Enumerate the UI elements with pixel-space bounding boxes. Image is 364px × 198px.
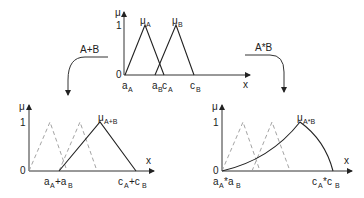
arrow-product-label: A*B [255,42,273,53]
curved-arrow-left [68,57,108,95]
curve-product [222,122,333,171]
arrow-sum: A+B [68,44,108,95]
bottom-right-plot: μ x 0 1 μ A*B a A *a B c A *c B [212,101,352,189]
svg-text:B: B [196,86,201,93]
svg-text:*c: *c [323,176,332,187]
label-mu-a: μ A [140,15,151,28]
svg-text:A: A [128,86,133,93]
br-y-tick-1: 1 [213,117,219,128]
tick-c-b: c B [190,80,201,93]
br-x-axis-label: x [344,155,349,166]
svg-text:*a: *a [224,176,234,187]
top-y-axis-label: μ [115,7,121,18]
dashed-triangle-b [252,122,290,171]
triangle-sum [59,122,136,171]
svg-text:c: c [312,176,317,187]
dashed-triangle-a [222,122,260,171]
svg-text:A: A [146,21,151,28]
tick-product-a: a A *a B [213,176,241,189]
svg-text:B: B [335,182,340,189]
svg-text:B: B [142,182,147,189]
tick-sum-c: c A +c B [118,176,147,189]
svg-text:c: c [162,80,167,91]
br-y-tick-0: 0 [213,165,219,176]
svg-text:A+B: A+B [104,118,118,125]
top-plot: μ x 0 1 μ A μ B a A a B c A c B [115,7,250,93]
top-y-tick-1: 1 [116,20,122,31]
svg-text:c: c [118,176,123,187]
svg-text:B: B [236,182,241,189]
bl-x-axis-label: x [146,155,151,166]
arrow-sum-label: A+B [80,44,100,55]
tick-product-c: c A *c B [312,176,340,189]
arrow-product: A*B [245,42,284,92]
svg-text:c: c [190,80,195,91]
top-x-axis-label: x [243,79,248,90]
bl-y-axis-label: μ [19,101,25,112]
curved-arrow-right [245,55,284,92]
top-y-tick-0: 0 [116,69,122,80]
svg-text:+c: +c [129,176,140,187]
tick-c-a: c A [162,80,173,93]
bl-y-tick-0: 0 [20,165,26,176]
tick-a-a: a A [122,80,133,93]
label-mu-b: μ B [172,15,183,28]
bl-y-tick-1: 1 [20,117,26,128]
dashed-triangle-a [29,122,67,171]
svg-text:B: B [68,182,73,189]
tick-sum-a: a A +a B [44,176,73,189]
svg-text:B: B [178,21,183,28]
br-y-axis-label: μ [212,101,218,112]
fuzzy-arithmetic-diagram: μ x 0 1 μ A μ B a A a B c A c B [0,0,364,198]
bottom-left-plot: μ x 0 1 μ A+B a A +a B c A +c B [19,101,154,189]
svg-text:+a: +a [55,176,67,187]
svg-text:A: A [168,86,173,93]
svg-text:A*B: A*B [303,118,315,125]
